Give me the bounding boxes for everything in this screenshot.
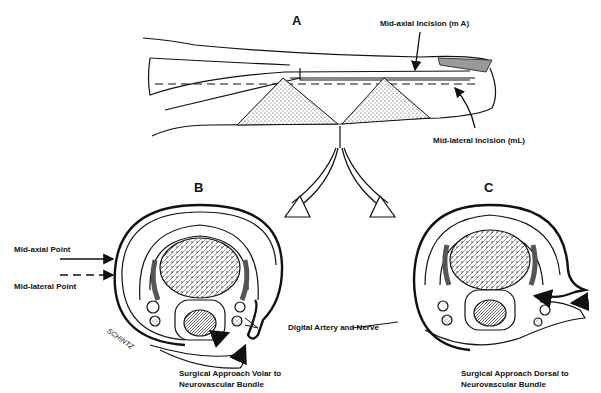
volar-approach-arrow-2: [240, 346, 245, 357]
figure-illustration: [0, 0, 601, 393]
panel-label-c: C: [484, 180, 493, 195]
mid-lateral-incision-label: Mid-lateral Incision (mL): [433, 136, 525, 146]
mid-lateral-arrow: [455, 88, 475, 128]
caption-c-line-1: Surgical Approach Dorsal to: [461, 368, 569, 379]
mid-lateral-point-label: Mid-lateral Point: [14, 282, 76, 292]
phalanx-bone: [160, 238, 240, 298]
incision-triangle-1: [237, 78, 338, 125]
caption-c: Surgical Approach Dorsal to Neurovascula…: [461, 368, 569, 390]
cross-section-b: [115, 205, 282, 368]
digital-leader-b: [245, 318, 258, 328]
mid-axial-arrow: [415, 32, 420, 70]
dorsal-approach-arrow-2: [572, 302, 584, 303]
mid-axial-point-label: Mid-axial Point: [14, 245, 70, 255]
branch-arrows: [285, 126, 395, 217]
flexor-tendon-c: [474, 300, 506, 326]
phalanx-bone-c: [450, 230, 530, 290]
flexor-tendon: [184, 310, 216, 336]
cross-section-c: [414, 205, 585, 350]
panel-label-b: B: [194, 180, 203, 195]
caption-c-line-2: Neurovascular Bundle: [461, 379, 569, 390]
caption-b: Surgical Approach Volar to Neurovascular…: [179, 368, 281, 390]
caption-b-line-2: Neurovascular Bundle: [179, 379, 281, 390]
panel-label-a: A: [292, 13, 301, 28]
digital-artery-nerve-label: Digital Artery and Nerve: [288, 323, 379, 333]
mid-axial-incision-label: Mid-axial Incision (m A): [380, 19, 469, 29]
caption-b-line-1: Surgical Approach Volar to: [179, 368, 281, 379]
incision-triangle-2: [342, 78, 430, 124]
